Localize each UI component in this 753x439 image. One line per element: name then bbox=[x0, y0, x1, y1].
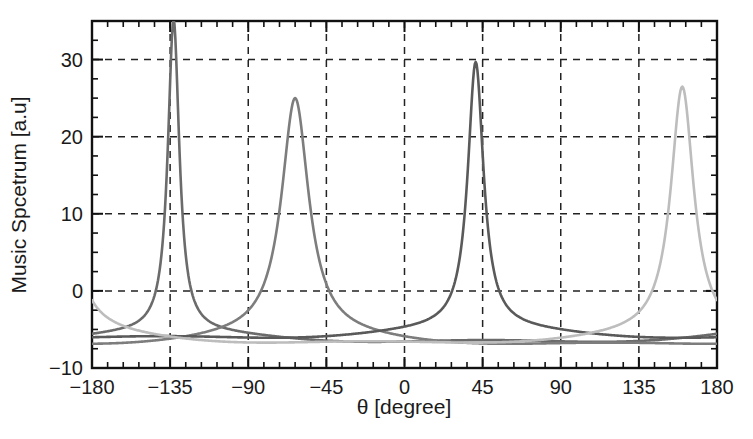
x-tick-label: 90 bbox=[550, 376, 572, 398]
y-tick-label: 20 bbox=[61, 126, 83, 148]
x-tick-label: −45 bbox=[309, 376, 343, 398]
x-tick-label: −90 bbox=[231, 376, 265, 398]
y-tick-label: 0 bbox=[72, 280, 83, 302]
x-tick-label: 135 bbox=[622, 376, 655, 398]
y-tick-label: 30 bbox=[61, 49, 83, 71]
x-axis-label: θ [degree] bbox=[357, 395, 452, 418]
y-tick-label: 10 bbox=[61, 203, 83, 225]
music-spectrum-figure: −180−135−90−4504590135180 −100102030 θ [… bbox=[0, 0, 753, 439]
chart-canvas: −180−135−90−4504590135180 −100102030 θ [… bbox=[0, 0, 753, 439]
y-axis-label: Music Spcetrum [a.u] bbox=[7, 96, 30, 293]
x-tick-label: 45 bbox=[472, 376, 494, 398]
x-tick-label: 180 bbox=[700, 376, 733, 398]
x-tick-label: −135 bbox=[148, 376, 193, 398]
x-tick-label: −180 bbox=[69, 376, 114, 398]
y-tick-label: −10 bbox=[49, 357, 83, 379]
